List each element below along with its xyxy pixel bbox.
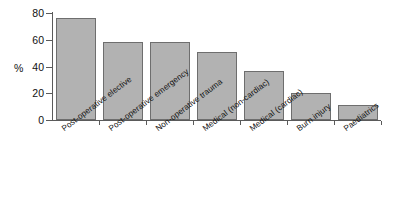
bar-chart: % 020406080 Post-operative electivePost-… — [0, 0, 402, 210]
x-tick-mark — [334, 121, 335, 125]
y-tick-label: 40 — [0, 61, 44, 73]
y-tick-mark — [46, 67, 52, 68]
y-tick-mark — [46, 13, 52, 14]
y-axis-line — [52, 12, 53, 121]
x-tick-mark — [287, 121, 288, 125]
x-tick-mark — [99, 121, 100, 125]
y-tick-label: 20 — [0, 87, 44, 99]
x-tick-mark — [240, 121, 241, 125]
y-tick-label: 0 — [0, 114, 44, 126]
y-tick-mark — [46, 120, 52, 121]
y-tick-label: 60 — [0, 34, 44, 46]
y-tick-mark — [46, 40, 52, 41]
y-tick-mark — [46, 93, 52, 94]
x-tick-mark — [381, 121, 382, 125]
x-tick-mark — [146, 121, 147, 125]
y-tick-label: 80 — [0, 7, 44, 19]
x-tick-mark — [193, 121, 194, 125]
